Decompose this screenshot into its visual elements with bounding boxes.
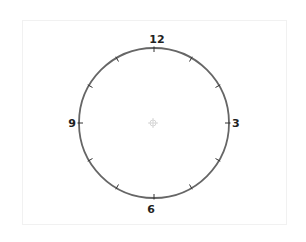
hour-label-9: 9 xyxy=(68,117,76,130)
crosshair-icon xyxy=(148,118,158,128)
hour-label-12: 12 xyxy=(149,33,164,46)
clock-face[interactable]: 12 3 6 9 xyxy=(0,0,306,242)
hour-label-6: 6 xyxy=(147,203,155,216)
hour-label-3: 3 xyxy=(232,117,240,130)
